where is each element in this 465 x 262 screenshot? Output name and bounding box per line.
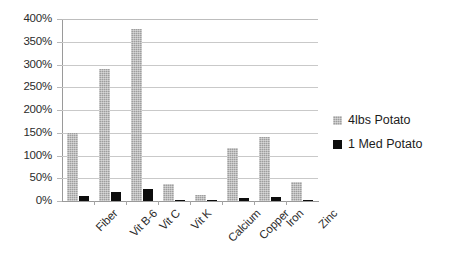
- bar-copper-4lbs-potato: [227, 148, 238, 201]
- y-tick-label: 200%: [0, 104, 52, 115]
- y-axis: 400% 350% 300% 250% 200% 150% 100% 50% 0…: [0, 0, 52, 262]
- legend-label: 4lbs Potato: [348, 113, 411, 127]
- y-tick-label: 150%: [0, 127, 52, 138]
- bar-fiber-1-med-potato: [79, 196, 89, 201]
- y-tick-label: 0%: [0, 195, 52, 206]
- legend-label: 1 Med Potato: [348, 137, 422, 151]
- bar-chart: 400% 350% 300% 250% 200% 150% 100% 50% 0…: [0, 0, 465, 262]
- gridline: [62, 65, 318, 66]
- y-tick-label: 250%: [0, 81, 52, 92]
- bar-zinc-1-med-potato: [303, 200, 313, 202]
- bar-vit-b-6-4lbs-potato: [99, 69, 110, 201]
- x-axis-label-calcium: Calcium: [226, 207, 263, 244]
- bar-vit-k-4lbs-potato: [163, 184, 174, 201]
- y-tick-label: 100%: [0, 150, 52, 161]
- bar-calcium-4lbs-potato: [195, 195, 206, 201]
- bar-vit-c-4lbs-potato: [131, 29, 142, 201]
- x-axis-labels: FiberVit B-6Vit CVit KCalciumCopperIronZ…: [62, 203, 320, 262]
- bar-vit-k-1-med-potato: [175, 200, 185, 202]
- x-axis-label-copper: Copper: [257, 207, 291, 241]
- y-tick-label: 400%: [0, 13, 52, 24]
- x-axis-label-fiber: Fiber: [93, 207, 119, 233]
- bar-calcium-1-med-potato: [207, 200, 217, 202]
- y-tick-label: 350%: [0, 36, 52, 47]
- y-tick-label: 50%: [0, 172, 52, 183]
- y-tick-label: 300%: [0, 59, 52, 70]
- legend-item-1-med-potato[interactable]: 1 Med Potato: [333, 132, 463, 156]
- bar-zinc-4lbs-potato: [291, 182, 302, 201]
- x-axis-label-vit-c: Vit C: [157, 207, 182, 232]
- gridline: [62, 19, 318, 20]
- bar-iron-1-med-potato: [271, 197, 281, 201]
- x-axis-label-vit-k: Vit K: [189, 207, 214, 232]
- legend-swatch-gray-icon: [333, 116, 342, 125]
- bar-vit-b-6-1-med-potato: [111, 192, 121, 201]
- bar-vit-c-1-med-potato: [143, 189, 153, 201]
- plot-area: [62, 19, 318, 201]
- gridline: [62, 42, 318, 43]
- chart-legend: 4lbs Potato 1 Med Potato: [333, 108, 463, 156]
- bar-copper-1-med-potato: [239, 198, 249, 201]
- x-axis-label-zinc: Zinc: [316, 207, 339, 230]
- bar-iron-4lbs-potato: [259, 137, 270, 201]
- bar-fiber-4lbs-potato: [67, 133, 78, 201]
- legend-swatch-black-icon: [333, 140, 342, 149]
- x-axis-label-vit-b-6: Vit B-6: [128, 207, 160, 239]
- legend-item-4lbs-potato[interactable]: 4lbs Potato: [333, 108, 463, 132]
